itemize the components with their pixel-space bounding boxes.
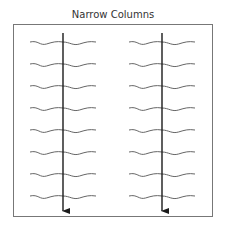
page-frame	[14, 25, 213, 217]
columns-group	[30, 33, 195, 211]
left-column	[30, 33, 96, 211]
narrow-columns-diagram	[0, 0, 226, 228]
right-column	[129, 33, 195, 211]
